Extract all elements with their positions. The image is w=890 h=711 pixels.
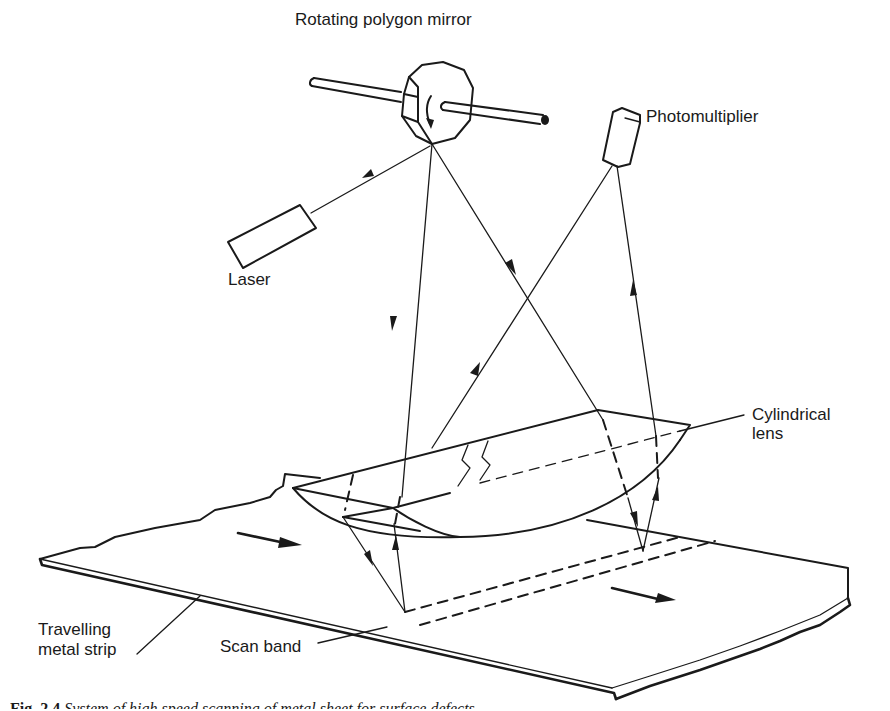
diagram-canvas: Rotating polygon mirror Photomultiplier … <box>0 0 890 711</box>
lens-label-line2: lens <box>752 424 783 444</box>
scan-band <box>405 537 715 625</box>
strip-direction-arrows <box>238 533 676 603</box>
photomultiplier <box>603 108 640 167</box>
laser-label: Laser <box>228 270 271 290</box>
rotating-polygon-mirror <box>310 62 549 144</box>
mirror-label: Rotating polygon mirror <box>295 10 472 30</box>
strip-label-line1: Travelling <box>38 620 111 640</box>
light-rays <box>343 144 659 612</box>
laser <box>228 146 430 268</box>
scan-band-label: Scan band <box>220 637 301 657</box>
cylindrical-lens <box>293 410 744 537</box>
photomultiplier-label: Photomultiplier <box>646 107 758 127</box>
lens-label-line1: Cylindrical <box>752 405 830 425</box>
strip-label-line2: metal strip <box>38 640 116 660</box>
metal-strip <box>40 474 850 699</box>
